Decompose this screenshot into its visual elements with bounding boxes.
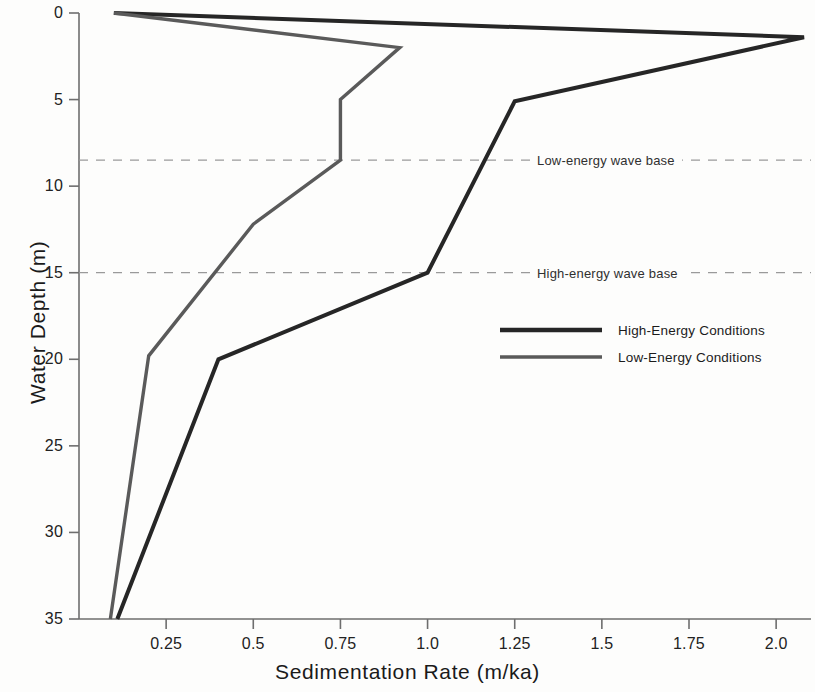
x-tick-label: 0.75	[324, 635, 356, 653]
data-series	[110, 13, 804, 619]
x-axis-title: Sedimentation Rate (m/ka)	[0, 660, 815, 684]
series-line	[114, 13, 804, 619]
x-tick-label: 0.5	[242, 635, 265, 653]
wave-base-label: High-energy wave base	[530, 265, 685, 280]
axes	[69, 13, 811, 629]
legend-label: High-Energy Conditions	[618, 323, 765, 338]
x-tick-label: 1.0	[416, 635, 439, 653]
y-tick-label: 10	[0, 177, 63, 195]
y-tick-label: 0	[0, 4, 63, 22]
y-tick-label: 5	[0, 91, 63, 109]
legend-swatches	[500, 330, 602, 357]
plot-canvas	[0, 0, 815, 692]
sedimentation-rate-depth-chart: 051015202530350.250.50.751.01.251.51.752…	[0, 0, 815, 692]
x-tick-label: 1.25	[499, 635, 531, 653]
wave-base-label: Low-energy wave base	[530, 153, 682, 168]
y-tick-label: 30	[0, 523, 63, 541]
wave-base-lines	[79, 160, 811, 273]
legend-label: Low-Energy Conditions	[618, 350, 762, 365]
x-tick-label: 1.5	[590, 635, 613, 653]
x-tick-label: 2.0	[765, 635, 788, 653]
y-tick-label: 35	[0, 610, 63, 628]
x-tick-label: 1.75	[673, 635, 705, 653]
x-tick-label: 0.25	[150, 635, 182, 653]
y-axis-title: Water Depth (m)	[26, 241, 50, 404]
y-tick-label: 25	[0, 437, 63, 455]
